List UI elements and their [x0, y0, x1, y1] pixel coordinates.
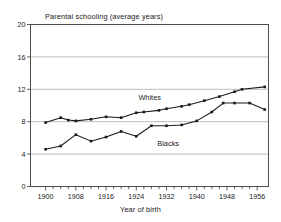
x-tick-label: 1948 [212, 192, 242, 201]
x-tick-label: 1916 [91, 192, 121, 201]
x-axis-label: Year of birth [0, 205, 281, 214]
gridlines [31, 57, 269, 154]
y-tick-label: 16 [8, 53, 26, 62]
series-whites [44, 86, 266, 124]
y-tick-label: 20 [8, 20, 26, 29]
x-tick-label: 1908 [61, 192, 91, 201]
x-tick-label: 1900 [31, 192, 61, 201]
x-tick-label: 1940 [182, 192, 212, 201]
x-tick-label: 1956 [242, 192, 272, 201]
x-tick-label: 1932 [152, 192, 182, 201]
parental-schooling-chart: Parental schooling (average years) 04812… [0, 0, 281, 222]
y-tick-label: 12 [8, 85, 26, 94]
y-tick-marks [27, 25, 31, 187]
plot-area [0, 0, 281, 222]
series-blacks [44, 102, 266, 151]
x-tick-marks [46, 187, 258, 191]
x-tick-label: 1924 [121, 192, 151, 201]
series-label-whites: Whites [138, 93, 161, 102]
y-tick-label: 8 [8, 117, 26, 126]
y-tick-label: 0 [8, 182, 26, 191]
plot-frame [31, 25, 269, 187]
y-tick-label: 4 [8, 150, 26, 159]
series-label-blacks: Blacks [157, 139, 179, 148]
